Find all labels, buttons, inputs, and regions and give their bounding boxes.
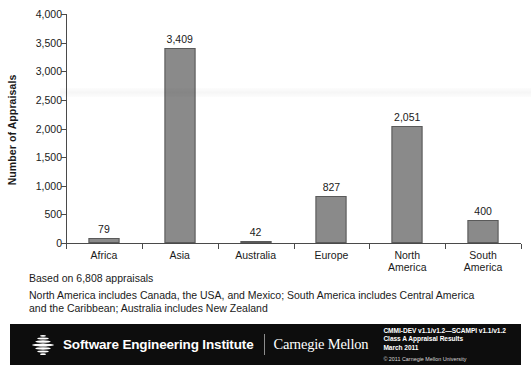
bar-value-label: 3,409	[167, 34, 193, 45]
bar	[88, 238, 119, 243]
bar-group: 42	[218, 14, 294, 243]
y-axis-tick-labels: 05001,0001,5002,0002,5003,0003,5004,000	[0, 0, 62, 272]
note-basis: Based on 6,808 appraisals	[29, 272, 499, 285]
bar	[240, 241, 271, 244]
bar	[316, 196, 347, 243]
x-axis-tick-mark	[521, 244, 522, 249]
y-axis-tick-label: 500	[18, 209, 62, 219]
y-axis-tick-label: 1,500	[18, 152, 62, 162]
bar-value-label: 42	[250, 227, 262, 238]
y-axis-tick-label: 0	[18, 238, 62, 248]
bar	[392, 126, 423, 243]
x-axis-tick-mark	[218, 244, 219, 249]
sei-globe-logo	[30, 334, 56, 356]
bar-value-label: 400	[474, 206, 492, 217]
plot-area: 79Africa3,409Asia42Australia827Europe2,0…	[66, 14, 521, 243]
x-axis-tick-mark	[294, 244, 295, 249]
footer-meta-line1: CMMI-DEV v1.1/v1.2—SCAMPI v1.1/v1.2	[383, 327, 505, 335]
bar-group: 3,409	[142, 14, 218, 243]
cmu-wordmark: Carnegie Mellon	[274, 336, 369, 353]
footer-meta-line2: Class A Appraisal Results	[383, 335, 505, 343]
bar-group: 827	[294, 14, 370, 243]
bar-group: 79	[66, 14, 142, 243]
y-axis-tick-label: 3,000	[18, 66, 62, 76]
y-axis-tick-label: 4,000	[18, 9, 62, 19]
sei-wordmark: Software Engineering Institute	[63, 337, 254, 352]
bar-value-label: 827	[323, 182, 341, 193]
bar	[164, 48, 195, 243]
sei-footer-banner: Software Engineering Institute Carnegie …	[10, 324, 521, 365]
y-axis-tick-label: 2,500	[18, 95, 62, 105]
footer-divider	[264, 334, 265, 355]
bar-group: 2,051	[369, 14, 445, 243]
bar-group: 400	[445, 14, 521, 243]
bar-value-label: 79	[98, 224, 110, 235]
footer-meta-line3: March 2011	[383, 344, 505, 352]
footer-copyright: © 2011 Carnegie Mellon University	[383, 355, 505, 363]
bar-value-label: 2,051	[394, 112, 420, 123]
chart-notes: Based on 6,808 appraisals North America …	[29, 272, 499, 315]
note-regions: North America includes Canada, the USA, …	[29, 289, 491, 315]
bar-chart-figure: Number of Appraisals 05001,0001,5002,000…	[0, 0, 531, 272]
x-axis-category-label: SouthAmerica	[438, 250, 528, 273]
y-axis-tick-label: 1,000	[18, 181, 62, 191]
x-axis-tick-mark	[445, 244, 446, 249]
x-axis-tick-mark	[142, 244, 143, 249]
bar	[468, 220, 499, 243]
y-axis-tick-label: 3,500	[18, 38, 62, 48]
footer-metadata: CMMI-DEV v1.1/v1.2—SCAMPI v1.1/v1.2 Clas…	[383, 326, 505, 363]
x-axis-tick-mark	[369, 244, 370, 249]
y-axis-tick-label: 2,000	[18, 124, 62, 134]
x-axis-tick-mark	[66, 244, 67, 249]
